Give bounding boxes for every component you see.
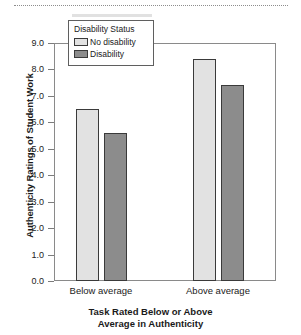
x-axis-title: Task Rated Below or Above Average in Aut…: [0, 306, 301, 330]
x-axis-title-line-1: Task Rated Below or Above: [0, 306, 301, 318]
y-axis-tick: [48, 43, 54, 44]
scan-artifact-smudge: [72, 14, 152, 17]
y-axis-tick-label: 6.0: [8, 117, 44, 127]
legend: Disability Status No disability Disabili…: [68, 20, 154, 66]
bar-below-average-no-disability: [76, 109, 99, 281]
legend-swatch-no-disability-icon: [74, 38, 88, 46]
x-axis-category-label: Above average: [168, 285, 268, 296]
legend-swatch-disability-icon: [74, 50, 88, 58]
bar-above-average-disability: [221, 85, 244, 281]
y-axis-tick-label: 7.0: [8, 91, 44, 101]
y-axis-tick-label: 5.0: [8, 144, 44, 154]
bar-above-average-no-disability: [193, 59, 216, 281]
y-axis-tick-label: 3.0: [8, 197, 44, 207]
legend-label-no-disability: No disability: [90, 37, 136, 47]
y-axis-tick: [48, 281, 54, 282]
y-axis-tick-label: 4.0: [8, 170, 44, 180]
y-axis-tick-label: 0.0: [8, 276, 44, 286]
legend-title: Disability Status: [74, 24, 149, 34]
y-axis-tick: [48, 255, 54, 256]
y-axis-tick: [48, 122, 54, 123]
y-axis-tick: [48, 175, 54, 176]
bar-chart-figure: Authenticity Ratings of Student Work 9.0…: [0, 0, 301, 335]
y-axis-tick: [48, 202, 54, 203]
y-axis-tick-label: 2.0: [8, 223, 44, 233]
y-axis-tick: [48, 96, 54, 97]
y-axis-tick: [48, 228, 54, 229]
y-axis-tick-label: 1.0: [8, 250, 44, 260]
bar-below-average-disability: [104, 133, 127, 281]
page-dotted-rule-decoration: [14, 5, 288, 7]
legend-item-no-disability: No disability: [74, 37, 149, 47]
legend-label-disability: Disability: [90, 49, 124, 59]
x-axis-category-label: Below average: [51, 285, 151, 296]
x-axis-title-line-2: Average in Authenticity: [0, 318, 301, 330]
y-axis-tick: [48, 149, 54, 150]
y-axis-tick-label: 9.0: [8, 38, 44, 48]
y-axis-tick: [48, 69, 54, 70]
legend-item-disability: Disability: [74, 49, 149, 59]
y-axis-tick-label: 8.0: [8, 64, 44, 74]
